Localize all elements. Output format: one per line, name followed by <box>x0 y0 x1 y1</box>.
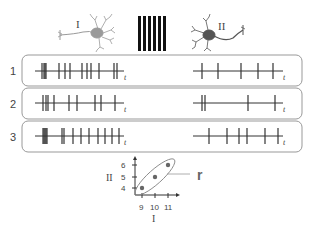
time-label: t <box>124 73 127 82</box>
y-tick-label: 5 <box>121 173 126 182</box>
x-tick-label: 11 <box>164 203 173 212</box>
x-tick-label: 10 <box>150 203 159 212</box>
spike-baselines <box>35 71 283 136</box>
stimulus-grating-icon <box>138 16 166 51</box>
x-tick-label: 9 <box>139 203 144 212</box>
y-tick-label: 6 <box>121 161 126 170</box>
neuron-ii-label: II <box>218 20 226 32</box>
data-point <box>140 186 144 190</box>
trial-label-2: 2 <box>10 98 16 110</box>
neuron-i-label: I <box>76 18 80 30</box>
data-point <box>166 163 170 167</box>
correlation-label: r <box>197 167 203 183</box>
neuron-i-icon <box>58 14 115 52</box>
y-tick-label: 4 <box>121 184 126 193</box>
correlation-scatter-plot: 6 5 4 9 10 11 II I r <box>106 154 203 224</box>
x-axis-label: I <box>152 213 155 224</box>
trial-label-3: 3 <box>10 131 16 143</box>
trial-label-1: 1 <box>10 65 16 77</box>
spike-correlation-figure: I II 1 2 3 t t <box>0 0 314 237</box>
time-label: t <box>283 105 286 114</box>
time-label: t <box>283 73 286 82</box>
time-label: t <box>283 138 286 147</box>
time-label: t <box>124 138 127 147</box>
data-point <box>153 175 157 179</box>
y-axis-label: II <box>106 172 113 183</box>
time-label: t <box>124 105 127 114</box>
